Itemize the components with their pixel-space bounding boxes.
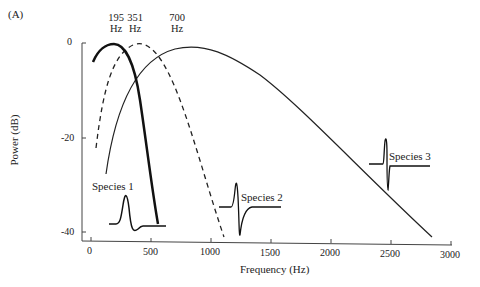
waveform-species-3 <box>369 139 430 190</box>
x-axis-title: Frequency (Hz) <box>240 263 309 275</box>
xtick-label: 2000 <box>320 247 340 258</box>
xtick-label: 1500 <box>260 247 280 258</box>
ytick-label: -40 <box>61 226 74 237</box>
species-3-label: Species 3 <box>389 150 431 162</box>
xtick-label: 3000 <box>440 249 460 260</box>
xtick-label: 500 <box>143 246 158 257</box>
chart-plot <box>0 0 480 287</box>
xtick-label: 0 <box>87 245 92 256</box>
ytick-label: 0 <box>67 36 72 47</box>
xtick-label: 2500 <box>380 248 400 259</box>
ytick-label: -20 <box>61 132 74 143</box>
species-2-label: Species 2 <box>241 191 283 203</box>
y-axis-title: Power (dB) <box>8 114 20 165</box>
curve-species-2 <box>96 44 224 237</box>
waveform-species-1 <box>109 196 166 231</box>
species-1-label: Species 1 <box>92 180 134 192</box>
xtick-label: 1000 <box>200 246 220 257</box>
